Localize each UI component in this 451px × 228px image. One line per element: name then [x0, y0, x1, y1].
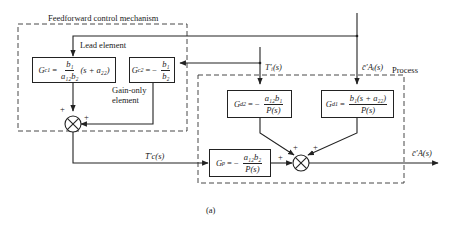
signal-ti: T′ᵢ(s)	[265, 63, 282, 72]
gd1-block: Gd1 = b₁(s + a₂₂)P(s)	[321, 90, 394, 118]
gc1-fraction: b₁a₁₂b₂	[61, 60, 78, 80]
signal-cai: c̄′Aᵢ(s)	[362, 63, 383, 72]
gc1-block: Gc1 = b₁a₁₂b₂ (s + a₂₂)	[32, 57, 116, 83]
signal-tc: T̄′c(s)	[145, 152, 164, 161]
feedforward-region-title: Feedforward control mechanism	[48, 14, 158, 23]
figure-caption: (a)	[206, 206, 215, 215]
gain-only-label-line1: Gain-only	[112, 86, 146, 95]
signal-ca-output: c̄′A(s)	[412, 149, 432, 158]
gp-block: Gp = − a₁₂b₂P(s)	[209, 149, 271, 177]
sum2-sign-gd1: +	[313, 143, 318, 152]
gc2-fraction: b₁b₂	[161, 60, 170, 80]
process-region-title: Process	[392, 66, 418, 75]
sum1-sign-top: +	[60, 105, 65, 114]
lead-element-label: Lead element	[80, 41, 126, 50]
sum2-sign-gp: +	[278, 153, 283, 162]
gc2-block: Gc2 = − b₁b₂	[129, 57, 175, 83]
gp-fraction: a₁₂b₂P(s)	[243, 153, 262, 173]
gd1-fraction: b₁(s + a₂₂)P(s)	[349, 94, 387, 114]
sum1-sign-right: +	[84, 113, 89, 122]
sum2-sign-gd2: +	[293, 143, 298, 152]
gain-only-label-line2: element	[112, 96, 139, 105]
gd2-block: Gd2 = − a₁₂b₁P(s)	[227, 90, 292, 118]
gd2-fraction: a₁₂b₁P(s)	[264, 94, 283, 114]
